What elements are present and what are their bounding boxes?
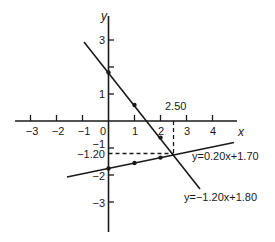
x-tick-label: 0 xyxy=(100,125,106,137)
x-tick-label: 2 xyxy=(158,125,164,137)
line-2-points xyxy=(106,155,162,170)
y-guide-label: −1.20 xyxy=(77,148,105,160)
x-tick-label: −2 xyxy=(52,125,65,137)
x-tick-label: −3 xyxy=(26,125,39,137)
x-tick-label: 4 xyxy=(210,125,216,137)
line-1 xyxy=(84,42,200,189)
x-ticks xyxy=(31,115,213,121)
chart: −3 −2 −1 0 1 2 3 4 3 1 −1 −2 −3 y x 2.50… xyxy=(0,0,275,242)
x-tick-labels: −3 −2 −1 0 1 2 3 4 xyxy=(26,125,216,137)
x-axis-label: x xyxy=(237,125,245,139)
x-tick-label: −1 xyxy=(78,125,91,137)
y-tick-label: 1 xyxy=(99,88,105,100)
x-tick-label: 1 xyxy=(132,125,138,137)
y-axis-label: y xyxy=(100,9,108,23)
chart-svg: −3 −2 −1 0 1 2 3 4 3 1 −1 −2 −3 y x 2.50… xyxy=(0,0,275,242)
line-1-label: y=−1.20x+1.80 xyxy=(184,191,257,203)
line-2-label: y=0.20x+1.70 xyxy=(192,150,259,162)
x-guide-label: 2.50 xyxy=(165,100,186,112)
y-tick-label: 3 xyxy=(99,34,105,46)
y-tick-label: −3 xyxy=(92,197,105,209)
x-tick-label: 3 xyxy=(184,125,190,137)
